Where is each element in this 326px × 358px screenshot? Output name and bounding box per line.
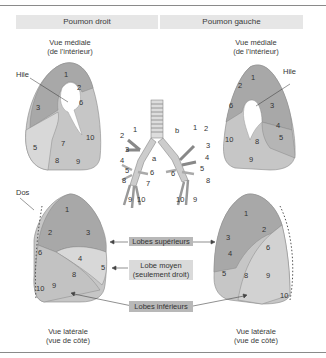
svg-text:3: 3 — [86, 228, 90, 237]
segment-2: 2 — [238, 81, 242, 90]
label-b: b — [175, 126, 179, 135]
svg-text:10: 10 — [36, 284, 44, 293]
svg-text:10: 10 — [280, 291, 288, 300]
segment-1: 1 — [251, 73, 255, 82]
svg-text:1: 1 — [244, 209, 248, 218]
svg-text:9: 9 — [193, 195, 197, 204]
segment-4: 4 — [276, 121, 280, 130]
segment-5: 5 — [33, 143, 37, 152]
svg-text:3: 3 — [125, 145, 129, 154]
svg-text:8: 8 — [244, 271, 248, 280]
svg-text:1: 1 — [65, 205, 69, 214]
svg-text:9: 9 — [128, 195, 132, 204]
segment-3: 3 — [270, 101, 274, 110]
segment-7: 7 — [61, 139, 65, 148]
svg-text:3: 3 — [226, 233, 230, 242]
tag-middle-lobe: Lobe moyen (seulement droit) — [129, 260, 193, 280]
svg-text:10: 10 — [176, 195, 184, 204]
svg-text:5: 5 — [101, 263, 105, 272]
right-medial-lung: 1 2 3 6 5 7 10 8 9 — [26, 63, 101, 170]
svg-text:9: 9 — [52, 281, 56, 290]
svg-text:8: 8 — [72, 270, 76, 279]
svg-text:4: 4 — [205, 153, 209, 162]
svg-text:8: 8 — [206, 176, 210, 185]
right-lateral-lung: 1 2 3 4 5 6 8 9 10 — [20, 194, 107, 302]
segment-5: 5 — [279, 133, 283, 142]
segment-8: 8 — [55, 156, 59, 165]
label-a: a — [152, 154, 157, 163]
svg-text:2: 2 — [120, 131, 124, 140]
segment-1: 1 — [64, 70, 68, 79]
svg-text:5: 5 — [222, 269, 226, 278]
svg-text:8: 8 — [122, 176, 126, 185]
segment-2: 2 — [77, 83, 81, 92]
segment-6: 6 — [229, 101, 233, 110]
segment-9: 9 — [76, 157, 80, 166]
tag-middle-line2: (seulement droit) — [129, 270, 193, 279]
svg-text:6: 6 — [38, 248, 42, 257]
svg-text:6: 6 — [150, 168, 154, 177]
svg-text:4: 4 — [228, 249, 232, 258]
svg-text:2: 2 — [48, 228, 52, 237]
svg-text:2: 2 — [204, 124, 208, 133]
svg-text:10: 10 — [137, 195, 145, 204]
segment-10: 10 — [86, 133, 94, 142]
svg-text:5: 5 — [200, 164, 204, 173]
svg-text:4: 4 — [78, 254, 82, 263]
left-lateral-lung: 1 2 3 4 5 6 8 9 10 — [214, 194, 293, 304]
tag-superior-lobes: Lobes supérieurs — [129, 237, 193, 246]
segment-6: 6 — [79, 98, 83, 107]
svg-text:1: 1 — [133, 125, 137, 134]
svg-text:9: 9 — [266, 271, 270, 280]
bronchial-tree — [122, 100, 196, 208]
hile-label-left: Hile — [283, 67, 296, 76]
hile-label-right: Hile — [16, 70, 29, 79]
svg-text:7: 7 — [146, 179, 150, 188]
left-medial-lung: 1 2 6 3 4 5 10 8 9 — [223, 65, 295, 170]
svg-text:2: 2 — [262, 225, 266, 234]
svg-text:6: 6 — [266, 243, 270, 252]
tag-inferior-lobes: Lobes inférieurs — [129, 301, 193, 312]
svg-text:5: 5 — [125, 166, 129, 175]
svg-text:6: 6 — [171, 169, 175, 178]
svg-text:4: 4 — [120, 156, 124, 165]
segment-8: 8 — [255, 137, 259, 146]
svg-text:1: 1 — [193, 123, 197, 132]
segment-3: 3 — [36, 103, 40, 112]
svg-text:3: 3 — [206, 141, 210, 150]
dos-label: Dos — [16, 188, 29, 197]
tag-middle-line1: Lobe moyen — [129, 261, 193, 270]
segment-10: 10 — [225, 135, 233, 144]
segment-9: 9 — [249, 155, 253, 164]
